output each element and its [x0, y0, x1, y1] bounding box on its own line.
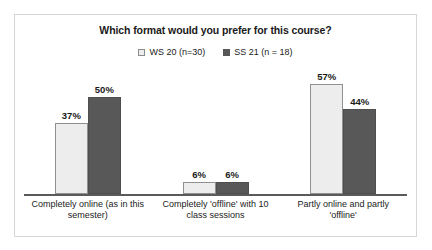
chart-container: Which format would you prefer for this c…	[14, 14, 417, 237]
bar-ws20-2[interactable]	[310, 84, 343, 194]
bar-value-label-ss21-0: 50%	[95, 84, 114, 95]
x-axis-label-2: Partly online and partly 'offline'	[279, 199, 407, 221]
x-axis-line	[24, 194, 407, 196]
bar-ws20-1[interactable]	[183, 182, 216, 194]
bar-wrap-ss21-0: 50%	[88, 97, 121, 194]
bar-ss21-1[interactable]	[216, 182, 249, 194]
x-axis-labels: Completely online (as in this semester) …	[24, 199, 407, 221]
plot-area: 37% 50% 6% 6%	[15, 15, 416, 236]
bar-value-label-ws20-2: 57%	[317, 71, 336, 82]
bar-wrap-ws20-0: 37%	[55, 123, 88, 194]
bar-value-label-ws20-0: 37%	[62, 110, 81, 121]
bar-wrap-ss21-2: 44%	[343, 109, 376, 194]
x-axis-label-1: Completely 'offline' with 10 class sessi…	[152, 199, 280, 221]
bar-ws20-0[interactable]	[55, 123, 88, 194]
bar-pair-0: 37% 50%	[24, 15, 152, 194]
x-axis-label-0: Completely online (as in this semester)	[24, 199, 152, 221]
bar-wrap-ws20-1: 6%	[183, 182, 216, 194]
bar-wrap-ws20-2: 57%	[310, 84, 343, 194]
bar-pair-2: 57% 44%	[279, 15, 407, 194]
bar-ss21-2[interactable]	[343, 109, 376, 194]
bar-ss21-0[interactable]	[88, 97, 121, 194]
bar-value-label-ss21-2: 44%	[350, 96, 369, 107]
bar-value-label-ss21-1: 6%	[225, 169, 239, 180]
bar-pair-1: 6% 6%	[152, 15, 280, 194]
bar-wrap-ss21-1: 6%	[216, 182, 249, 194]
bar-value-label-ws20-1: 6%	[192, 169, 206, 180]
